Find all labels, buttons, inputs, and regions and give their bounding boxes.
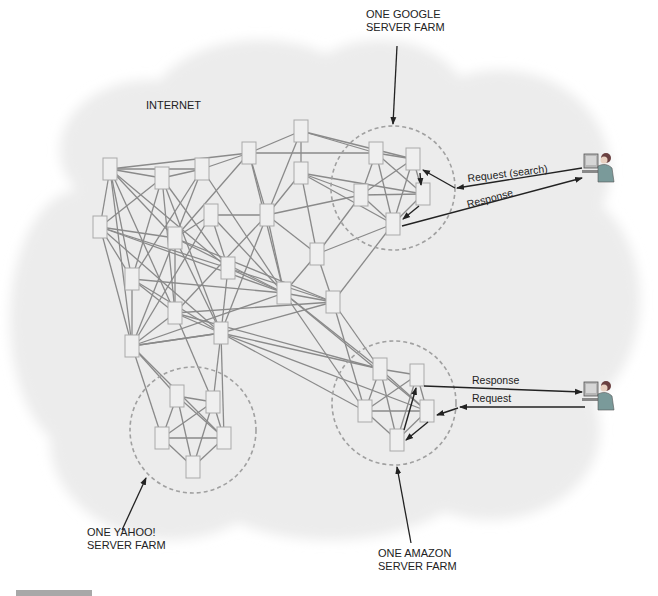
amazon-response-label: Response [472, 374, 519, 386]
router-node [155, 427, 169, 449]
router-node [168, 302, 182, 324]
google-farm-label: ONE GOOGLE SERVER FARM [366, 8, 445, 34]
router-node [420, 400, 434, 422]
router-node [125, 268, 139, 290]
router-node [369, 142, 383, 164]
router-node [260, 204, 274, 226]
amazon-request-label: Request [472, 392, 511, 404]
router-node [277, 282, 291, 304]
router-node [294, 162, 308, 184]
router-node [214, 322, 228, 344]
figure-caption-cropped [98, 590, 348, 596]
router-node [390, 429, 404, 451]
google-inner-arrow [420, 173, 421, 185]
router-node [168, 227, 182, 249]
router-node [195, 158, 209, 180]
router-node [155, 167, 169, 189]
router-node [410, 364, 424, 386]
router-node [310, 243, 324, 265]
router-node [221, 257, 235, 279]
internet-server-farm-diagram: Request (search) Response Response Reque… [0, 0, 658, 596]
router-node [326, 291, 340, 313]
router-node [170, 385, 184, 407]
figure-caption-bar [16, 590, 92, 596]
router-node [186, 456, 200, 478]
router-node [125, 335, 139, 357]
internet-cloud [10, 40, 640, 540]
router-node [358, 400, 372, 422]
router-node [217, 427, 231, 449]
router-node [406, 148, 420, 170]
router-node [93, 216, 107, 238]
yahoo-farm-label: ONE YAHOO! SERVER FARM [87, 526, 166, 552]
router-node [204, 204, 218, 226]
router-node [373, 358, 387, 380]
router-node [386, 213, 400, 235]
router-node [242, 142, 256, 164]
router-node [294, 120, 308, 142]
router-node [416, 183, 430, 205]
router-node [206, 391, 220, 413]
router-node [103, 158, 117, 180]
amazon-farm-label: ONE AMAZON SERVER FARM [378, 547, 457, 573]
internet-label: INTERNET [146, 99, 201, 112]
router-node [354, 184, 368, 206]
